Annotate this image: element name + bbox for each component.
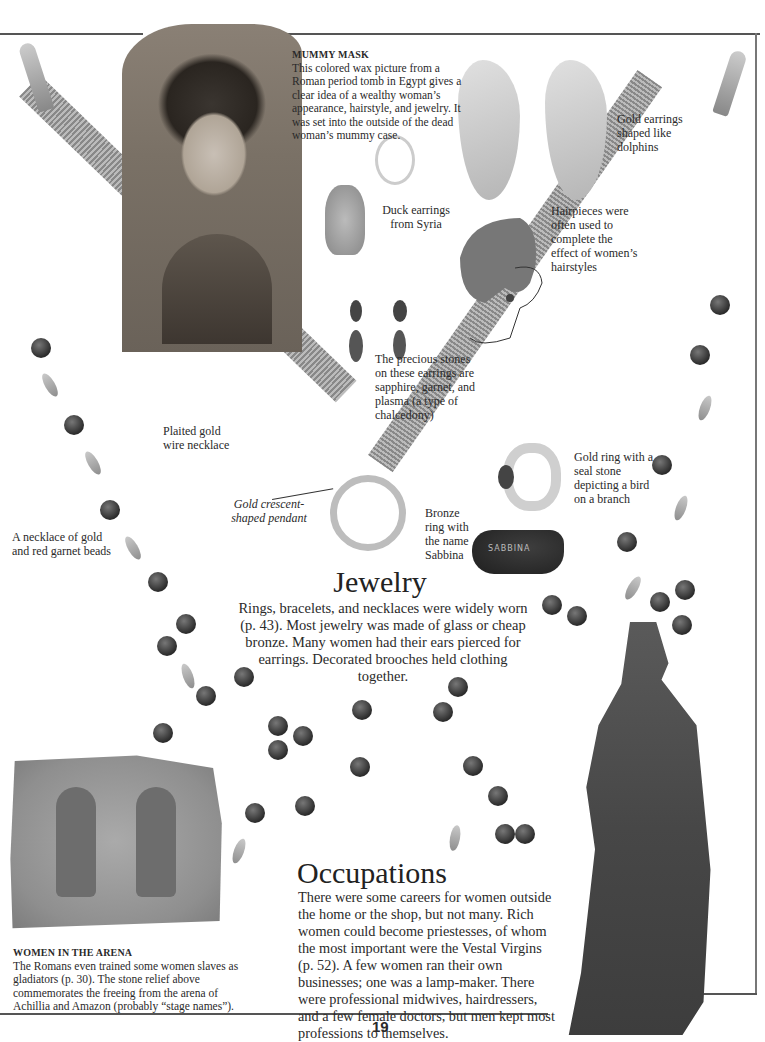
gold-bead [622, 574, 644, 602]
right-border [755, 33, 757, 993]
garnet-necklace-caption: A necklace of gold and red garnet beads [12, 530, 122, 558]
garnet-bead [567, 606, 587, 626]
gold-bead [696, 394, 714, 422]
garnet-bead [31, 338, 51, 358]
garnet-bead [675, 580, 695, 600]
garnet-bead [690, 345, 710, 365]
top-rule-left [0, 33, 143, 35]
bronze-statue [560, 622, 735, 1035]
garnet-bead [245, 803, 265, 823]
gold-bead [448, 824, 462, 851]
occupations-body: There were some careers for women outsid… [298, 889, 560, 1042]
jewelry-body: Rings, bracelets, and necklaces were wid… [238, 600, 528, 685]
garnet-bead [176, 614, 196, 634]
garnet-bead [295, 796, 315, 816]
caption-title: MUMMY MASK [292, 48, 472, 62]
pendant-caption: Gold crescent-shaped pendant [224, 497, 314, 525]
bronze-ring-caption: Bronze ring with the name Sabbina [425, 506, 481, 562]
garnet-bead [352, 700, 372, 720]
garnet-bead [268, 740, 288, 760]
dolphin-earrings-caption: Gold earrings shaped like dolphins [617, 112, 705, 154]
garnet-bead [100, 500, 120, 520]
gold-bead [230, 837, 248, 865]
duck-earrings-caption: Duck earrings from Syria [380, 203, 452, 231]
gold-bead [122, 534, 144, 562]
garnet-bead [463, 756, 483, 776]
ring-inscription: SABBINA [488, 544, 531, 553]
duck-earring-top [375, 135, 415, 185]
hairpieces-caption: Hairpieces were often used to complete t… [551, 204, 641, 274]
caption-title: WOMEN IN THE ARENA [13, 946, 253, 960]
gold-ring-caption: Gold ring with a seal stone depicting a … [574, 450, 664, 506]
top-rule-right [270, 33, 760, 35]
necklace-clasp-left [18, 41, 55, 113]
caption-text: This colored wax picture from a Roman pe… [292, 62, 461, 142]
garnet-bead [515, 824, 535, 844]
gold-bead [672, 494, 690, 522]
garnet-bead [495, 824, 515, 844]
duck-earring-bottom [325, 185, 365, 255]
garnet-bead [542, 595, 562, 615]
garnet-bead [196, 686, 216, 706]
garnet-bead [157, 636, 177, 656]
gold-necklace-caption: Plaited gold wire necklace [163, 424, 243, 452]
garnet-bead [293, 726, 313, 746]
garnet-bead [350, 757, 370, 777]
page-number: 19 [372, 1018, 389, 1035]
garnet-bead [488, 786, 508, 806]
garnet-bead [433, 702, 453, 722]
crescent-pendant [330, 475, 406, 551]
seal-stone [498, 465, 514, 489]
stone-earring-left [350, 300, 362, 322]
garnet-bead [64, 415, 84, 435]
garnet-bead [268, 716, 288, 736]
mummy-mask-caption: MUMMY MASK This colored wax picture from… [292, 48, 472, 143]
gold-bead [39, 371, 61, 399]
garnet-bead [153, 723, 173, 743]
stone-earring-left-2 [349, 330, 363, 362]
garnet-bead [710, 295, 730, 315]
gold-bead [179, 662, 197, 690]
garnet-bead [617, 532, 637, 552]
garnet-bead [672, 615, 692, 635]
caption-text: The precious stones on these earrings ar… [375, 352, 475, 422]
bronze-ring: SABBINA [472, 530, 564, 574]
necklace-clasp-right [712, 49, 748, 117]
bottom-rule-right [700, 993, 757, 995]
gladiator-relief [6, 752, 224, 930]
occupations-heading: Occupations [297, 857, 547, 889]
mummy-portrait [122, 24, 302, 352]
garnet-bead [148, 572, 168, 592]
garnet-bead [650, 592, 670, 612]
hairstyle-sketch [450, 208, 548, 353]
precious-stones-caption: The precious stones on these earrings ar… [375, 352, 485, 422]
women-arena-caption: WOMEN IN THE ARENA The Romans even train… [13, 946, 253, 1014]
jewelry-heading: Jewelry [300, 566, 460, 598]
stone-earring-right [393, 300, 407, 322]
caption-text: The Romans even trained some women slave… [13, 960, 238, 1013]
gold-bead [82, 449, 104, 477]
